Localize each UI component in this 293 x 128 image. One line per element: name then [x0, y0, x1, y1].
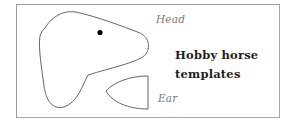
head-template-outline [39, 12, 148, 108]
ear-label: Ear [158, 92, 178, 104]
figure-title-line-1: Hobby horse [175, 46, 258, 65]
ear-template-outline [106, 76, 148, 109]
figure-title-line-2: templates [175, 65, 258, 84]
eye-dot [97, 30, 102, 35]
figure-title: Hobby horse templates [175, 46, 258, 84]
head-label: Head [156, 13, 185, 25]
